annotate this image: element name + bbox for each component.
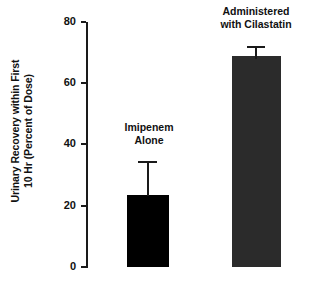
bar-label-imipenem-alone: Imipenem Alone — [110, 121, 188, 146]
y-tick-40 — [81, 143, 86, 145]
error-bar-stem-imipenem-alone — [147, 162, 149, 196]
y-tick-label-40: 40 — [36, 138, 76, 149]
y-tick-label-80: 80 — [36, 16, 76, 27]
bar-imipenem-alone — [127, 195, 169, 267]
error-bar-stem-administered-with-cilastatin — [255, 47, 257, 59]
y-tick-0 — [81, 266, 86, 268]
y-axis-spine — [86, 22, 88, 268]
y-tick-label-60: 60 — [36, 77, 76, 88]
y-tick-label-20: 20 — [36, 200, 76, 211]
plot-area: 80 60 40 20 0 Imipenem Alone Administere… — [0, 0, 313, 281]
y-tick-80 — [81, 21, 86, 23]
y-tick-20 — [81, 205, 86, 207]
bar-administered-with-cilastatin — [232, 56, 281, 267]
y-tick-60 — [81, 82, 86, 84]
error-bar-cap-imipenem-alone — [138, 161, 157, 163]
bar-label-administered-with-cilastatin: Administered with Cilastatin — [199, 5, 313, 30]
y-tick-label-0: 0 — [36, 261, 76, 272]
bar-chart-figure: Urinary Recovery within First 10 Hr (Per… — [0, 0, 313, 281]
error-bar-cap-administered-with-cilastatin — [247, 46, 265, 48]
